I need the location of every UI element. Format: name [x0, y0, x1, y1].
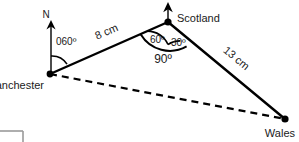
edge-manchester-wales-dashed [50, 74, 285, 119]
angle-label-60: 60º [150, 34, 165, 45]
angle-label-30: 30º [171, 37, 186, 48]
place-label-scotland: Scotland [177, 12, 220, 24]
north-label-manchester: N [42, 9, 49, 20]
north-arrow-manchester [46, 20, 55, 74]
vertex-dot-scotland [164, 18, 171, 25]
corner-mark [0, 131, 23, 142]
vertex-dot-wales [281, 115, 288, 122]
place-label-manchester: Manchester [0, 79, 44, 91]
angle-label-90: 90º [154, 52, 172, 66]
place-label-wales: Wales [265, 127, 296, 139]
diagram-canvas: N 060º 60º 30º 90º 8 cm 13 cm Manchester… [0, 0, 299, 142]
angle-label-060: 060º [56, 36, 77, 47]
angle-arc-060 [51, 56, 67, 64]
bearings-diagram: N 060º 60º 30º 90º 8 cm 13 cm Manchester… [0, 0, 299, 142]
vertex-dot-manchester [47, 71, 54, 78]
length-label-8cm: 8 cm [93, 21, 120, 42]
length-label-13cm: 13 cm [221, 44, 252, 72]
